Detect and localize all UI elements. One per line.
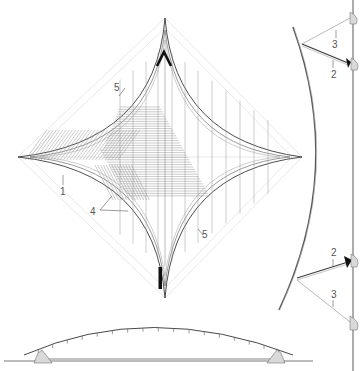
hatch-line [111,130,133,160]
connector-bottom-2 [350,316,358,330]
hatch-line [67,130,89,160]
hatch-line [76,130,98,160]
hatch-line [73,130,95,160]
strut-2-bottom [297,262,348,278]
hatch-line [126,165,144,200]
hatch-line [28,130,50,160]
hatch-line [103,165,121,200]
hatch-line [51,130,73,160]
hatch-line [105,130,127,160]
hatch-line [115,130,137,160]
roof-plan: 5 1 4 5 [18,18,302,298]
label-4: 4 [90,206,96,217]
architectural-drawing: 5 1 4 5 3 2 2 3 [0,0,363,371]
hatch-line [112,165,130,200]
hatch-line [118,130,140,160]
cable-3-top [302,18,350,44]
label-2-top: 2 [331,69,337,80]
footing-right [267,350,285,363]
label-3-top: 3 [332,39,338,50]
connector-top-1 [350,12,357,24]
hatch-line [83,130,105,160]
label-1: 1 [60,186,66,197]
hatch-line [129,165,147,200]
hatch-line [120,165,138,200]
hatch-line [131,165,149,200]
label-5-bottom: 5 [202,229,208,240]
connector-top-2 [351,58,358,70]
label-3-bottom: 3 [331,289,337,300]
elevation [4,328,313,364]
hatch-line [79,130,101,160]
connector-bottom-1 [351,254,358,267]
strut-2-top [302,44,348,63]
side-section: 3 2 2 3 [279,0,358,371]
arch-ticks [38,328,278,354]
label-5-top: 5 [114,82,120,93]
cable-3-bottom [297,280,350,322]
hatch-line [63,130,85,160]
hatch-line [47,130,69,160]
hatch-line [57,130,79,160]
bottom-bar-marker [159,267,163,289]
arch-curve [24,328,293,356]
hatch-line [95,130,117,160]
leader-4a [100,210,128,211]
footing-left [34,350,52,363]
hatch-line [60,130,82,160]
leader-4b [100,196,112,210]
hatch-line [108,130,130,160]
label-2-bottom: 2 [331,247,337,258]
hatch-line [123,165,141,200]
hatch-line [99,130,121,160]
hatch-line [95,165,113,200]
